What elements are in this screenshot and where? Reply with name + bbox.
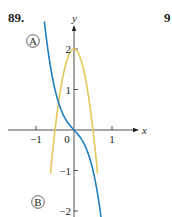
y-axis-arrow-icon bbox=[72, 25, 76, 31]
y-tick-label: 1 bbox=[66, 84, 72, 96]
y-tick-label: −2 bbox=[59, 205, 71, 217]
y-tick-label: −1 bbox=[59, 165, 71, 177]
x-axis-label: x bbox=[141, 124, 147, 136]
axes bbox=[8, 25, 139, 217]
curve-a-label: A bbox=[29, 35, 37, 47]
axis-labels: −101−2−112xyAB bbox=[27, 12, 147, 217]
x-axis-arrow-icon bbox=[133, 128, 139, 132]
x-tick-label: 1 bbox=[109, 133, 115, 145]
y-axis-label: y bbox=[71, 12, 77, 24]
y-tick-label: 2 bbox=[66, 43, 72, 55]
x-tick-label: −1 bbox=[30, 133, 42, 145]
graph: −101−2−112xyAB bbox=[0, 0, 172, 217]
x-tick-label: 0 bbox=[64, 133, 70, 145]
curve-b-label: B bbox=[34, 196, 41, 208]
